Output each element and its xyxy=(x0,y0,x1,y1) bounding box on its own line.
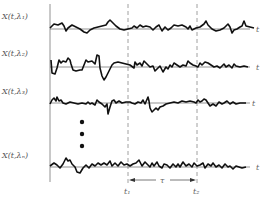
ellipsis-dots xyxy=(80,120,84,148)
t-axis-label: t xyxy=(256,63,260,72)
tau-interval-arrow: τ xyxy=(129,176,196,185)
tau-label: τ xyxy=(160,176,165,185)
row-label: X(t,λ₃) xyxy=(1,87,28,96)
t-axis-label: t xyxy=(252,99,256,108)
sample-function-row-n: X(t,λₙ) t xyxy=(1,151,260,173)
t-axis-label: t xyxy=(256,25,260,34)
row-label: X(t,λ₁) xyxy=(1,12,28,21)
sample-function-row-2: X(t,λ₂) t xyxy=(1,49,260,80)
t-axis-label: t xyxy=(256,163,260,172)
sample-function-row-1: X(t,λ₁) t xyxy=(1,12,260,34)
sample-function-row-3: X(t,λ₃) t xyxy=(1,87,256,114)
row-label: X(t,λₙ) xyxy=(1,151,28,160)
t1-label: t₁ xyxy=(124,187,130,196)
random-process-ensemble-diagram: X(t,λ₁) t X(t,λ₂) t X(t,λ₃) t X(t,λₙ) t … xyxy=(0,0,270,206)
row-label: X(t,λ₂) xyxy=(1,49,28,58)
t2-label: t₂ xyxy=(193,187,199,196)
